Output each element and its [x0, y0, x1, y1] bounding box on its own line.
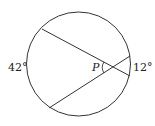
chord-upper [42, 29, 130, 76]
chord-diagram: 42° P 12° [0, 0, 155, 126]
left-arc-label: 42° [8, 61, 28, 74]
right-arc-label: 12° [133, 61, 153, 74]
angle-arc-p [102, 62, 104, 73]
chord-lower [49, 56, 130, 108]
circle [27, 12, 131, 116]
point-p-label: P [91, 61, 100, 74]
